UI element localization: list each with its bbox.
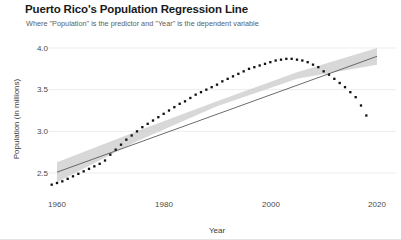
- data-point: [93, 165, 95, 167]
- data-point: [301, 59, 303, 61]
- data-point: [344, 86, 346, 88]
- x-axis-label-wrapper: Year: [157, 219, 277, 237]
- confidence-band: [57, 48, 377, 182]
- data-point: [280, 59, 282, 61]
- data-point: [51, 184, 53, 186]
- x-tick-label: 1980: [144, 200, 184, 209]
- y-tick-label: 3.0: [22, 127, 48, 136]
- data-point: [168, 109, 170, 111]
- data-point: [141, 126, 143, 128]
- data-point: [349, 91, 351, 93]
- data-point: [365, 114, 367, 116]
- data-point: [312, 64, 314, 66]
- data-point: [328, 74, 330, 76]
- y-axis-label: Population (in millions): [12, 79, 21, 159]
- data-point: [285, 58, 287, 60]
- data-point: [211, 86, 213, 88]
- data-point: [83, 170, 85, 172]
- data-point: [221, 80, 223, 82]
- data-point: [152, 119, 154, 121]
- data-point: [227, 78, 229, 80]
- data-point: [189, 97, 191, 99]
- data-point: [56, 182, 58, 184]
- data-point: [104, 159, 106, 161]
- data-point: [237, 73, 239, 75]
- data-point: [205, 89, 207, 91]
- data-point: [147, 123, 149, 125]
- data-point: [136, 130, 138, 132]
- data-point: [67, 178, 69, 180]
- data-point: [269, 61, 271, 63]
- data-point: [77, 173, 79, 175]
- data-point: [131, 134, 133, 136]
- data-point: [275, 59, 277, 61]
- data-point: [291, 58, 293, 60]
- x-tick-label: 1960: [37, 200, 77, 209]
- data-point: [333, 78, 335, 80]
- data-point: [259, 64, 261, 66]
- data-point: [317, 66, 319, 68]
- data-point: [125, 139, 127, 141]
- y-axis-label-wrapper: Population (in millions): [5, 59, 23, 179]
- data-point: [184, 100, 186, 102]
- data-point: [88, 168, 90, 170]
- data-point: [339, 82, 341, 84]
- confidence-band-shape: [57, 48, 377, 182]
- x-tick-label: 2000: [251, 200, 291, 209]
- data-point: [179, 103, 181, 105]
- data-point: [360, 104, 362, 106]
- data-point: [115, 149, 117, 151]
- data-point: [195, 94, 197, 96]
- x-tick-label: 2020: [357, 200, 397, 209]
- y-tick-label: 3.5: [22, 85, 48, 94]
- x-axis-label: Year: [209, 226, 225, 235]
- data-point: [323, 70, 325, 72]
- data-point: [109, 154, 111, 156]
- data-point: [163, 113, 165, 115]
- data-point: [243, 70, 245, 72]
- y-tick-label: 4.0: [22, 44, 48, 53]
- data-point: [248, 68, 250, 70]
- data-point: [99, 163, 101, 165]
- data-point: [264, 63, 266, 65]
- data-point: [296, 59, 298, 61]
- y-tick-label: 2.5: [22, 169, 48, 178]
- data-point: [157, 116, 159, 118]
- data-point: [120, 144, 122, 146]
- chart-figure: Puerto Rico's Population Regression Line…: [0, 0, 401, 240]
- data-point: [61, 180, 63, 182]
- data-point: [253, 66, 255, 68]
- data-point: [72, 175, 74, 177]
- data-point: [355, 96, 357, 98]
- data-point: [200, 91, 202, 93]
- data-point: [173, 106, 175, 108]
- data-point: [232, 75, 234, 77]
- data-point: [216, 84, 218, 86]
- data-point: [307, 61, 309, 63]
